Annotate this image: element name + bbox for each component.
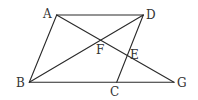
label-D: D	[146, 8, 156, 22]
label-F: F	[96, 43, 104, 57]
geometry-diagram: A D F E B C G	[0, 0, 198, 100]
segment-BD	[29, 15, 143, 82]
label-A: A	[42, 7, 52, 21]
segment-AB	[29, 15, 56, 82]
label-E: E	[130, 48, 139, 62]
label-G: G	[177, 76, 187, 90]
label-C: C	[110, 85, 119, 99]
label-B: B	[16, 76, 25, 90]
segment-AG	[57, 15, 174, 82]
